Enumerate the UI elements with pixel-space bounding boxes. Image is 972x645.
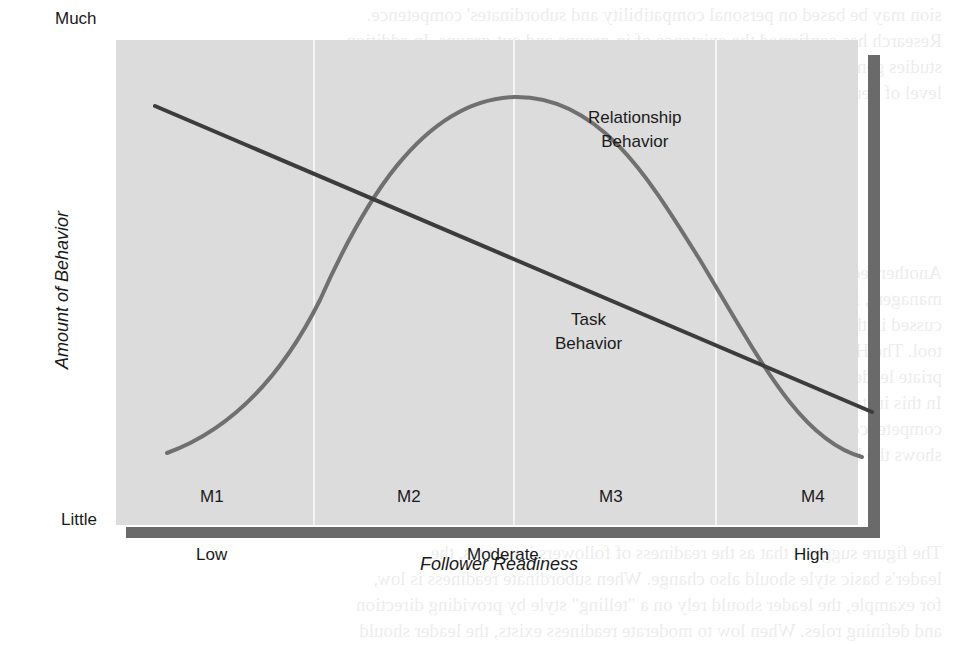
y-axis-top-label: Much: [55, 10, 97, 27]
plot-shadow-bottom: [126, 527, 880, 538]
zone-label-m2: M2: [397, 488, 421, 505]
x-axis-label-high: High: [794, 546, 829, 563]
task-behavior-label: Task Behavior: [555, 308, 622, 356]
y-axis-title: Amount of Behavior: [52, 211, 73, 369]
zone-label-m4: M4: [801, 488, 825, 505]
x-axis-label-low: Low: [196, 546, 227, 563]
zone-label-m1: M1: [200, 488, 224, 505]
y-axis-bottom-label: Little: [61, 511, 97, 528]
zone-divider-m2-m3: [513, 40, 515, 525]
zone-divider-m3-m4: [715, 40, 717, 525]
plot-shadow-right: [868, 55, 880, 538]
relationship-behavior-label: Relationship Behavior: [588, 106, 682, 154]
zone-divider-m1-m2: [313, 40, 315, 525]
plot-area: [116, 40, 858, 525]
x-axis-title: Follower Readiness: [420, 554, 578, 575]
zone-label-m3: M3: [599, 488, 623, 505]
